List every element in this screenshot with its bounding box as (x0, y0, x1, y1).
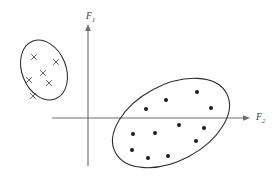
marker-dot (146, 156, 150, 160)
marker-dot (177, 123, 181, 127)
vertical-axis-label-subscript: 1 (92, 16, 95, 23)
marker-dot (131, 132, 135, 136)
marker-dot (166, 154, 170, 158)
vertical-axis-label: F (85, 11, 92, 21)
marker-dot (144, 107, 148, 111)
figure-canvas: F 1 F 2 (0, 0, 274, 177)
figure-background (0, 0, 274, 177)
marker-dot (153, 131, 157, 135)
marker-dot (130, 148, 134, 152)
marker-dot (194, 139, 198, 143)
feature-space-figure: F 1 F 2 (0, 0, 274, 177)
marker-dot (164, 98, 168, 102)
marker-dot (202, 126, 206, 130)
marker-dot (209, 106, 213, 110)
horizontal-axis-label: F (255, 112, 262, 122)
marker-dot (195, 90, 199, 94)
